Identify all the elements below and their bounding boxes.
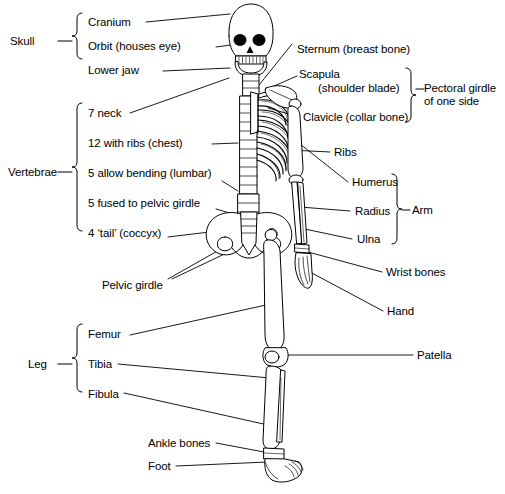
label-wrist-bones: Wrist bones bbox=[386, 266, 445, 279]
skeleton-artwork bbox=[0, 0, 505, 494]
label-foot: Foot bbox=[148, 460, 171, 473]
group-label-skull: Skull bbox=[10, 35, 34, 48]
label-chest-vertebrae: 12 with ribs (chest) bbox=[88, 137, 183, 150]
label-pelvic-girdle: Pelvic girdle bbox=[102, 279, 163, 292]
label-fibula: Fibula bbox=[88, 388, 119, 401]
label-lumbar-vertebrae: 5 allow bending (lumbar) bbox=[88, 167, 212, 180]
label-radius: Radius bbox=[355, 205, 390, 218]
arm-art bbox=[288, 106, 312, 288]
label-ribs: Ribs bbox=[334, 146, 357, 159]
skull-art bbox=[229, 4, 273, 76]
label-tibia: Tibia bbox=[88, 358, 112, 371]
skeleton-diagram: Skull Vertebrae Leg Pectoral girdle of o… bbox=[0, 0, 505, 494]
group-label-arm: Arm bbox=[412, 204, 433, 217]
bracket-leg bbox=[58, 324, 82, 392]
label-coccyx: 4 ‘tail’ (coccyx) bbox=[88, 227, 161, 240]
label-neck-vertebrae: 7 neck bbox=[88, 107, 121, 120]
label-sacral-vertebrae: 5 fused to pelvic girdle bbox=[88, 197, 200, 210]
bracket-pectoral-girdle bbox=[406, 68, 424, 122]
label-clavicle: Clavicle (collar bone) bbox=[303, 111, 408, 124]
label-sternum: Sternum (breast bone) bbox=[297, 43, 410, 56]
label-cranium: Cranium bbox=[88, 16, 131, 29]
group-label-vertebrae: Vertebrae bbox=[8, 166, 57, 179]
shoulder-girdle-art bbox=[259, 86, 301, 109]
bracket-vertebrae bbox=[58, 103, 82, 231]
label-orbit: Orbit (houses eye) bbox=[88, 40, 181, 53]
label-ulna: Ulna bbox=[357, 233, 380, 246]
bracket-skull bbox=[58, 13, 82, 59]
label-patella: Patella bbox=[417, 349, 451, 362]
label-femur: Femur bbox=[88, 328, 121, 341]
group-label-pectoral-girdle: Pectoral girdle of one side bbox=[424, 82, 496, 108]
label-ankle-bones: Ankle bones bbox=[148, 437, 210, 450]
group-label-leg: Leg bbox=[28, 358, 47, 371]
label-scapula-sub: (shoulder blade) bbox=[318, 82, 400, 95]
label-lower-jaw: Lower jaw bbox=[88, 64, 139, 77]
label-scapula: Scapula bbox=[299, 68, 340, 81]
label-humerus: Humerus bbox=[352, 176, 398, 189]
label-hand: Hand bbox=[387, 305, 414, 318]
